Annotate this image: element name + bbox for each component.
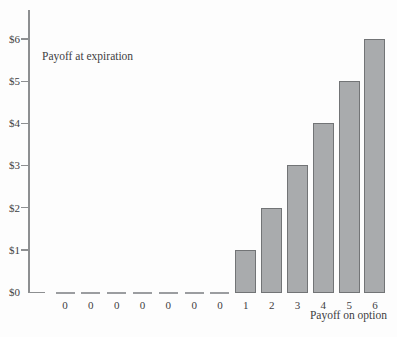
x-category-label: 0 [183, 299, 205, 312]
y-axis-tick-usd5 [21, 81, 29, 82]
payoff-bar-4 [313, 123, 334, 293]
zero-payoff-dash [159, 292, 178, 294]
payoff-bar-3 [287, 165, 308, 293]
y-axis-tick-usd4 [21, 123, 29, 124]
payoff-bar-2 [261, 208, 282, 294]
y-tick-label: $0 [0, 285, 20, 299]
chart-inner-title: Payoff at expiration [42, 50, 133, 62]
y-axis-tick-usd3 [21, 165, 29, 166]
y-tick-label: $2 [0, 201, 20, 215]
zero-payoff-dash [56, 292, 75, 294]
zero-payoff-dash [81, 292, 100, 294]
payoff-bar-5 [339, 81, 360, 293]
zero-payoff-dash [210, 292, 229, 294]
x-category-label: 0 [80, 299, 102, 312]
y-axis-tick-usd1 [21, 249, 29, 250]
y-axis-tick-usd2 [21, 207, 29, 208]
x-category-label: 2 [261, 299, 283, 312]
y-tick-label: $6 [0, 32, 20, 46]
x-category-label: 0 [106, 299, 128, 312]
x-axis-origin-foot [29, 292, 45, 293]
y-tick-label: $4 [0, 116, 20, 130]
payoff-bar-1 [235, 250, 256, 294]
zero-payoff-dash [185, 292, 204, 294]
payoff-bar-6 [364, 39, 385, 294]
x-category-label: 0 [131, 299, 153, 312]
payoff-bar-chart: Payoff at expiration $0$1$2$3$4$5$6 0000… [0, 0, 397, 337]
zero-payoff-dash [133, 292, 152, 294]
y-axis-tick-usd6 [21, 38, 29, 39]
y-tick-label: $3 [0, 158, 20, 172]
y-tick-label: $5 [0, 74, 20, 88]
x-category-label: 1 [235, 299, 257, 312]
x-axis-title: Payoff on option [300, 309, 387, 321]
x-category-label: 0 [209, 299, 231, 312]
zero-payoff-dash [107, 292, 126, 294]
x-category-label: 0 [157, 299, 179, 312]
x-category-label: 0 [54, 299, 76, 312]
y-tick-label: $1 [0, 243, 20, 257]
